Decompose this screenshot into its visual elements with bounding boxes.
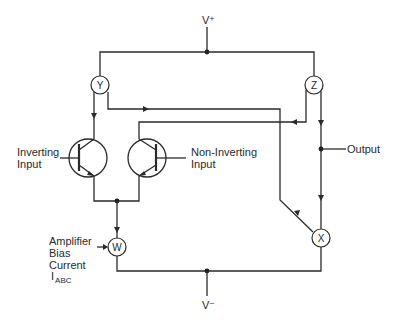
svg-text:W: W [112,242,122,253]
bias-current-label: Amplifier Bias Current [49,235,95,271]
current-source-z: Z [305,76,323,94]
z-to-q2-collector-wire [139,90,306,139]
iabc-symbol: IABC [51,270,72,285]
current-source-x: X [312,229,330,247]
down-arrow-icon [318,195,324,201]
emitter-junction-wire [94,176,139,201]
left-arrow-icon [291,119,297,125]
bottom-rail-wire [117,247,321,271]
right-arrow-icon [103,244,108,250]
output-label: Output [347,143,380,155]
ota-schematic: V⁺ Y Z Output X [0,0,398,326]
current-source-w: W [108,238,126,256]
inverting-input-label: Inverting Input [17,146,62,170]
transistor-q1-inverting [60,139,107,177]
vplus-label: V⁺ [202,14,215,26]
svg-text:X: X [318,233,325,244]
down-arrow-icon [318,120,324,126]
svg-text:Z: Z [311,80,317,91]
top-rail-wire [100,52,314,76]
current-source-y: Y [91,76,109,94]
right-arrow-icon [143,106,149,112]
transistor-q2-non-inverting [128,139,186,177]
svg-text:Y: Y [97,80,104,91]
non-inverting-input-label: Non-Inverting Input [191,146,260,170]
down-arrow-icon [114,227,120,233]
vminus-label: V⁻ [202,299,215,311]
down-arrow-icon [91,113,97,119]
